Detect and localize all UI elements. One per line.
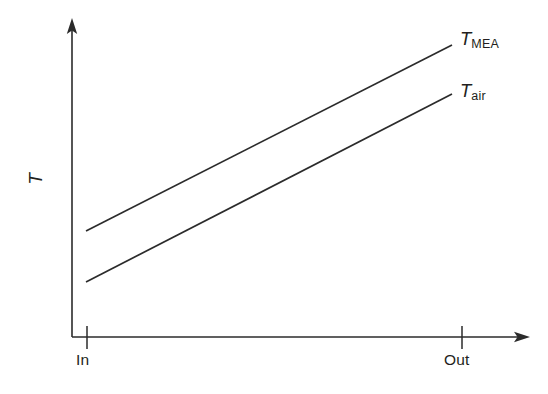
series-label-mea-subscript: MEA (471, 37, 499, 51)
x-tick-label-in: In (76, 352, 89, 368)
figure-canvas: T In Out TMEA Tair (0, 0, 548, 394)
series-label-mea: TMEA (460, 30, 499, 49)
series-label-air-symbol: T (460, 80, 471, 101)
series-label-air: Tair (460, 82, 486, 101)
series-label-air-subscript: air (471, 89, 486, 103)
series-line-air (86, 94, 452, 282)
series-label-mea-symbol: T (460, 28, 471, 49)
chart-plot-area (0, 0, 548, 394)
x-tick-label-out: Out (444, 352, 469, 368)
series-line-mea (86, 45, 452, 231)
temperature-axis-label: T (26, 166, 60, 192)
